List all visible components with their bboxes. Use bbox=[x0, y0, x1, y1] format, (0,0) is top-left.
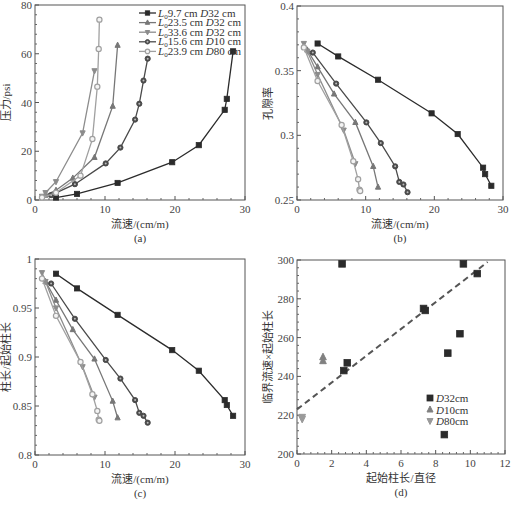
x-tick-label: 12 bbox=[500, 457, 511, 469]
y-tick-label: 60 bbox=[21, 48, 33, 60]
x-tick-label: 30 bbox=[240, 458, 252, 470]
circle-dot-center bbox=[147, 41, 149, 43]
triangle-up-marker bbox=[375, 184, 380, 189]
open-circle-marker bbox=[351, 159, 356, 164]
y-tick-label: 1 bbox=[27, 253, 33, 265]
x-tick-label: 10 bbox=[100, 203, 112, 215]
square-marker bbox=[429, 111, 434, 116]
open-circle-marker bbox=[78, 359, 83, 364]
square-marker bbox=[74, 191, 79, 196]
scatter-series-2 bbox=[320, 353, 327, 363]
square-marker bbox=[427, 395, 433, 401]
series-line bbox=[304, 47, 360, 191]
open-circle-marker bbox=[97, 17, 102, 22]
x-tick-label: 10 bbox=[465, 457, 477, 469]
open-circle-marker bbox=[90, 392, 95, 397]
circle-dot-center bbox=[398, 181, 400, 183]
open-circle-marker bbox=[358, 188, 363, 193]
triangle-up-marker bbox=[371, 163, 376, 168]
legend-entry: D32cm bbox=[435, 392, 469, 404]
square-marker bbox=[489, 183, 494, 188]
y-tick-label: 80 bbox=[21, 0, 33, 11]
y-tick-label: 220 bbox=[278, 409, 295, 421]
square-marker bbox=[145, 11, 149, 15]
square-marker bbox=[455, 131, 460, 136]
series-2 bbox=[305, 47, 381, 189]
x-tick-label: 10 bbox=[100, 458, 112, 470]
y-tick-label: 240 bbox=[278, 370, 295, 382]
open-circle-marker bbox=[356, 177, 361, 182]
circle-dot-center bbox=[365, 121, 367, 123]
square-marker bbox=[115, 312, 120, 317]
square-marker bbox=[460, 261, 467, 268]
series-line bbox=[318, 44, 492, 186]
x-tick-label: 0 bbox=[32, 203, 38, 215]
x-tick-label: 6 bbox=[398, 457, 404, 469]
circle-dot-center bbox=[74, 318, 76, 320]
figure-canvas: 0102030020406080流速/(cm/m)(a)压力/psiL09.7 … bbox=[0, 0, 516, 506]
y-tick-label: 40 bbox=[21, 97, 33, 109]
series-line bbox=[313, 53, 408, 193]
square-marker bbox=[344, 360, 351, 367]
circle-dot-center bbox=[147, 422, 149, 424]
plot-frame bbox=[297, 260, 505, 454]
circle-dot-center bbox=[138, 103, 140, 105]
triangle-up-marker bbox=[145, 20, 149, 24]
x-tick-label: 20 bbox=[170, 458, 182, 470]
x-tick-label: 0 bbox=[32, 458, 38, 470]
x-axis-title: 流速/(cm/m) bbox=[111, 217, 169, 231]
legend: D32cmD10cmD80cm bbox=[427, 392, 469, 427]
y-tick-label: 0.85 bbox=[13, 400, 33, 412]
y-tick-label: 0.25 bbox=[275, 194, 295, 206]
open-circle-marker bbox=[53, 313, 58, 318]
y-tick-label: 0 bbox=[27, 194, 33, 206]
chart-panel-d: 024681012200220240260280300起始柱长/直径(d)临界流… bbox=[261, 254, 511, 499]
x-tick-label: 20 bbox=[429, 203, 441, 215]
panel-caption: (b) bbox=[394, 232, 407, 245]
square-marker bbox=[483, 172, 488, 177]
series-3 bbox=[39, 271, 97, 401]
square-marker bbox=[224, 96, 229, 101]
y-tick-label: 0.9 bbox=[18, 351, 32, 363]
chart-panel-a: 0102030020406080流速/(cm/m)(a)压力/psiL09.7 … bbox=[0, 0, 251, 245]
square-marker bbox=[170, 160, 175, 165]
square-marker bbox=[480, 165, 485, 170]
y-axis-title: 孔隙率 bbox=[261, 87, 274, 120]
y-axis-title: 临界流速×起始柱长 bbox=[261, 310, 274, 404]
series-line bbox=[307, 50, 378, 187]
circle-dot-center bbox=[335, 83, 337, 85]
x-tick-label: 30 bbox=[240, 203, 252, 215]
series-1 bbox=[315, 41, 494, 188]
open-circle-marker bbox=[95, 84, 100, 89]
square-marker bbox=[74, 286, 79, 291]
y-tick-label: 280 bbox=[278, 293, 295, 305]
x-axis-title: 流速/(cm/m) bbox=[371, 217, 429, 231]
y-tick-label: 200 bbox=[278, 448, 295, 460]
square-marker bbox=[474, 270, 481, 277]
square-marker bbox=[196, 368, 201, 373]
square-marker bbox=[445, 350, 452, 357]
chart-panel-c: 01020300.80.850.90.951流速/(cm/m)(c)柱长/起始柱… bbox=[0, 253, 251, 500]
y-tick-label: 0.35 bbox=[275, 65, 295, 77]
triangle-down-marker bbox=[427, 419, 433, 425]
open-circle-marker bbox=[95, 408, 100, 413]
y-axis-title: 柱长/起始柱长 bbox=[0, 322, 12, 391]
circle-dot-center bbox=[119, 378, 121, 380]
x-tick-label: 4 bbox=[364, 457, 370, 469]
y-tick-label: 300 bbox=[278, 254, 295, 266]
square-marker bbox=[457, 330, 464, 337]
circle-dot-center bbox=[50, 283, 52, 285]
circle-dot-center bbox=[312, 52, 314, 54]
series-2 bbox=[43, 278, 120, 419]
square-marker bbox=[222, 107, 227, 112]
square-marker bbox=[170, 348, 175, 353]
open-circle-marker bbox=[78, 173, 83, 178]
x-tick-label: 8 bbox=[433, 457, 439, 469]
y-tick-label: 0.4 bbox=[280, 0, 294, 12]
legend-entry: D10cm bbox=[435, 404, 469, 416]
scatter-series-3 bbox=[299, 414, 306, 423]
square-marker bbox=[53, 271, 58, 276]
x-axis-title: 起始柱长/直径 bbox=[366, 471, 435, 484]
circle-dot-center bbox=[134, 119, 136, 121]
circle-dot-center bbox=[143, 415, 145, 417]
